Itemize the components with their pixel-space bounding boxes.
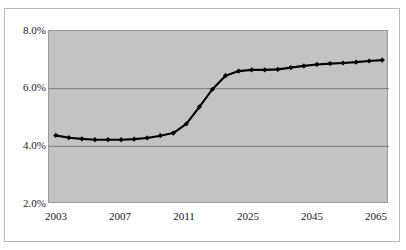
x-axis-labels: 2003 2007 2011 2025 2045 2065 (0, 0, 406, 250)
x-tick-label: 2025 (218, 211, 278, 222)
x-tick-label: 2065 (346, 211, 406, 222)
x-tick-label: 2011 (154, 211, 214, 222)
chart-screenshot: 8.0% 6.0% 4.0% 2.0% 2003 2007 2011 2025 … (0, 0, 406, 250)
x-tick-label: 2045 (282, 211, 342, 222)
x-tick-label: 2003 (26, 211, 86, 222)
x-tick-label: 2007 (90, 211, 150, 222)
